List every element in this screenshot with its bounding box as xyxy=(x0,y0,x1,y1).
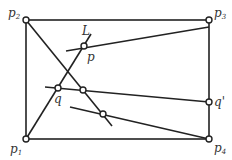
label-q: q xyxy=(54,92,62,106)
rectangle-frame xyxy=(26,20,209,139)
label-q-prime: q' xyxy=(214,95,225,109)
point-p3 xyxy=(206,17,212,23)
line-q-qprime xyxy=(45,87,209,102)
point-p4 xyxy=(206,136,212,142)
point-intersection xyxy=(80,87,86,93)
label-p4: p4 xyxy=(214,141,226,156)
point-p xyxy=(81,43,87,49)
point-q xyxy=(55,85,61,91)
point-p2 xyxy=(23,17,29,23)
point-q-prime xyxy=(206,99,212,105)
label-p3: p3 xyxy=(214,6,227,21)
label-p1: p1 xyxy=(10,142,22,157)
diagram-canvas: p2 p3 p1 p4 L p q q' xyxy=(0,0,232,160)
label-p: p xyxy=(87,50,95,64)
point-lower xyxy=(100,111,106,117)
diagonal-from-p2 xyxy=(26,20,112,126)
point-p1 xyxy=(23,136,29,142)
label-p2: p2 xyxy=(8,6,21,21)
label-L: L xyxy=(81,24,90,38)
line-to-p4 xyxy=(70,107,209,139)
